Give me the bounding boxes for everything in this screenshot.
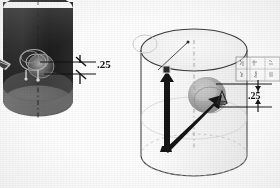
pointer-origin-dot bbox=[187, 41, 190, 44]
symbol-legend-box bbox=[236, 57, 280, 81]
right-figure-group: .25 bbox=[133, 29, 280, 176]
left-figure: .25 bbox=[0, 0, 280, 188]
square-node-marker bbox=[163, 66, 170, 73]
drawing-sheet: .25 bbox=[0, 0, 280, 188]
left-cylinder-group bbox=[0, 0, 73, 118]
pin-right-tip bbox=[36, 78, 40, 82]
pin-left-tip bbox=[24, 77, 27, 80]
vector-vertex bbox=[160, 146, 172, 152]
left-dimension-label: .25 bbox=[97, 58, 111, 70]
right-dimension-label: .25 bbox=[248, 90, 261, 101]
